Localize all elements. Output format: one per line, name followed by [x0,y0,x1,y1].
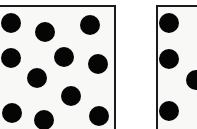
scatter-dot [89,106,109,126]
scatter-dot [34,110,54,129]
scatter-dot [1,13,21,33]
scatter-dot [88,54,108,74]
scatter-dot [2,103,22,123]
scatter-dot [80,15,100,35]
scatter-dot [54,47,74,67]
scatter-dot [159,49,179,69]
scatter-dot [27,68,47,88]
figure-canvas [0,0,197,129]
scatter-dot [159,101,179,121]
scatter-dot [159,13,179,33]
scatter-dot [61,86,81,106]
scatter-dot [1,48,21,68]
scatter-dot [35,22,55,42]
